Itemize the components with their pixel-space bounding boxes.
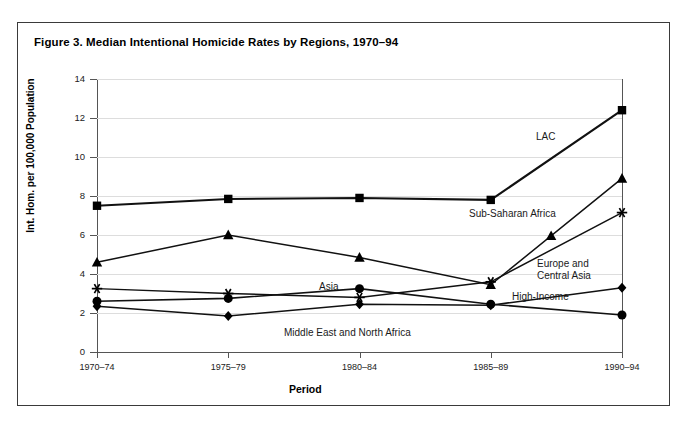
annotation-label: LAC [536,131,555,143]
marker-square [224,195,232,203]
marker-square [93,202,101,210]
annotation-label: Middle East and North Africa [284,327,411,339]
marker-triangle [546,230,556,240]
marker-square [618,106,626,114]
annotation-label: Europe and Central Asia [537,258,591,281]
marker-square [355,194,363,202]
series-line [97,110,622,206]
marker-triangle [617,173,627,183]
marker-diamond [224,311,233,321]
marker-asterisk [617,208,627,217]
annotation-label: Sub-Saharan Africa [469,208,556,220]
marker-square [487,196,495,204]
series-plot [0,0,689,429]
marker-circle [355,284,364,293]
series-lac [93,106,626,210]
marker-asterisk [92,284,102,293]
marker-triangle [223,230,233,240]
marker-diamond [355,299,364,309]
annotation-label: Asia [319,281,338,293]
annotation-label: High-Income [512,291,569,303]
marker-circle [224,294,233,303]
marker-diamond [618,283,627,293]
marker-circle [618,310,627,319]
